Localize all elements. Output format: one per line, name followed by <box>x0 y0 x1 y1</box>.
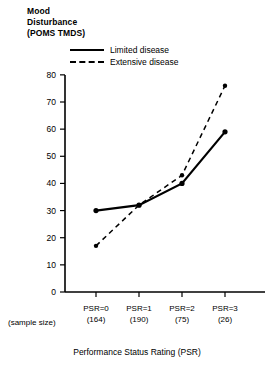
y-axis: 01020304050607080 <box>47 70 65 297</box>
sample-size-caption: (sample size) <box>8 318 56 327</box>
y-axis-tick-label: 10 <box>47 260 57 270</box>
x-category-label: PSR=3 <box>195 303 255 314</box>
data-point <box>222 129 227 134</box>
x-category-group: PSR=3(26) <box>195 303 255 325</box>
data-point <box>137 203 141 207</box>
data-point <box>179 181 184 186</box>
y-axis-tick-label: 70 <box>47 97 57 107</box>
data-point <box>93 208 98 213</box>
y-axis-tick-label: 40 <box>47 178 57 188</box>
y-axis-tick-label: 60 <box>47 124 57 134</box>
y-axis-tick-label: 30 <box>47 206 57 216</box>
x-axis <box>65 292 265 297</box>
data-point <box>223 84 227 88</box>
y-axis-tick-label: 20 <box>47 233 57 243</box>
x-category-sample-size: (26) <box>195 314 255 325</box>
y-axis-tick-label: 50 <box>47 151 57 161</box>
series-line-extensive-disease <box>96 86 225 246</box>
data-point <box>180 173 184 177</box>
data-point <box>94 244 98 248</box>
y-axis-tick-label: 80 <box>47 70 57 80</box>
chart-figure: Mood Disturbance (POMS TMDS) Limited dis… <box>0 0 274 367</box>
series-line-limited-disease <box>96 132 225 211</box>
data-series-group <box>93 84 227 249</box>
y-axis-tick-label: 0 <box>51 287 56 297</box>
x-axis-title: Performance Status Rating (PSR) <box>0 347 274 357</box>
